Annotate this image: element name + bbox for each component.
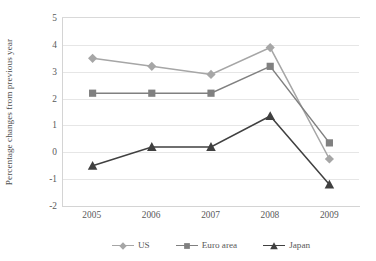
legend-entry-japan[interactable]: Japan xyxy=(263,239,310,251)
data-point-marker-diamond xyxy=(119,242,126,249)
x-axis-tick-label: 2007 xyxy=(201,210,220,221)
legend-swatch-square-icon xyxy=(176,240,198,251)
data-point-marker-square xyxy=(184,243,190,249)
legend-entry-euro-area[interactable]: Euro area xyxy=(176,239,237,251)
data-point-marker-triangle xyxy=(270,242,278,249)
legend-marker-square-icon xyxy=(183,242,191,250)
legend-marker-diamond-icon xyxy=(119,242,127,250)
y-axis-tick-label: -2 xyxy=(49,201,57,211)
y-axis-tick-label: 2 xyxy=(52,94,57,104)
legend-swatch-diamond-icon xyxy=(112,240,134,251)
legend-label: Euro area xyxy=(202,239,237,251)
line-chart: Percentage changes from previous year 54… xyxy=(0,0,376,261)
x-axis-tick-label: 2009 xyxy=(320,210,339,221)
legend-entry-us[interactable]: US xyxy=(112,239,150,251)
legend-label: US xyxy=(138,239,150,251)
legend-swatch-triangle-icon xyxy=(263,240,285,251)
y-axis-tick-label: 4 xyxy=(52,40,57,50)
x-axis-tick-label: 2006 xyxy=(142,210,161,221)
y-axis-title: Percentage changes from previous year xyxy=(2,12,16,212)
x-axis-tick-label: 2005 xyxy=(82,210,101,221)
x-axis-tick-label: 2008 xyxy=(261,210,280,221)
y-axis-tick-label: 1 xyxy=(52,120,57,130)
y-axis-tick-label: -1 xyxy=(49,174,57,184)
chart-legend: USEuro areaJapan xyxy=(62,236,360,254)
legend-marker-triangle-icon xyxy=(270,242,278,250)
y-axis-tick-label: 0 xyxy=(52,147,57,157)
y-axis-tick-label: 5 xyxy=(52,13,57,23)
x-axis-line xyxy=(62,206,360,207)
x-axis-tick-labels: 20052006200720082009 xyxy=(62,18,359,206)
legend-label: Japan xyxy=(289,239,310,251)
y-axis-tick-label: 3 xyxy=(52,67,57,77)
